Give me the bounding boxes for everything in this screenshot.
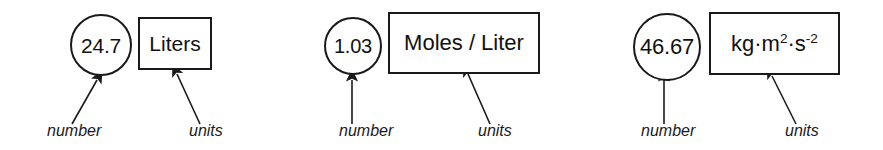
annotation-number-2: number (339, 122, 393, 140)
number-circle-2: 1.03 (324, 17, 382, 75)
units-base-2: ·s (788, 31, 806, 56)
units-exponent-2: -2 (806, 30, 818, 45)
units-box-3: kg·m2·s-2 (709, 12, 840, 75)
units-exponent-1: 2 (780, 30, 788, 45)
units-box-1: Liters (138, 17, 212, 70)
number-circle-3: 46.67 (633, 13, 701, 81)
number-value-2: 1.03 (334, 36, 372, 56)
units-value-1: Liters (149, 33, 200, 54)
number-circle-1: 24.7 (70, 14, 132, 76)
units-base-1: kg·m (731, 31, 780, 56)
quantity-notation-figure: 24.7 Liters number units 1.03 Moles / Li… (0, 0, 883, 150)
number-value-1: 24.7 (81, 35, 121, 56)
units-value-3: kg·m2·s-2 (731, 33, 818, 55)
annotation-number-3: number (641, 122, 695, 140)
annotation-number-1: number (47, 122, 101, 140)
number-value-3: 46.67 (640, 36, 694, 58)
annotation-units-1: units (189, 122, 223, 140)
annotation-units-3: units (785, 122, 819, 140)
units-box-2: Moles / Liter (388, 12, 540, 74)
annotation-units-2: units (478, 122, 512, 140)
units-value-2: Moles / Liter (404, 32, 524, 54)
